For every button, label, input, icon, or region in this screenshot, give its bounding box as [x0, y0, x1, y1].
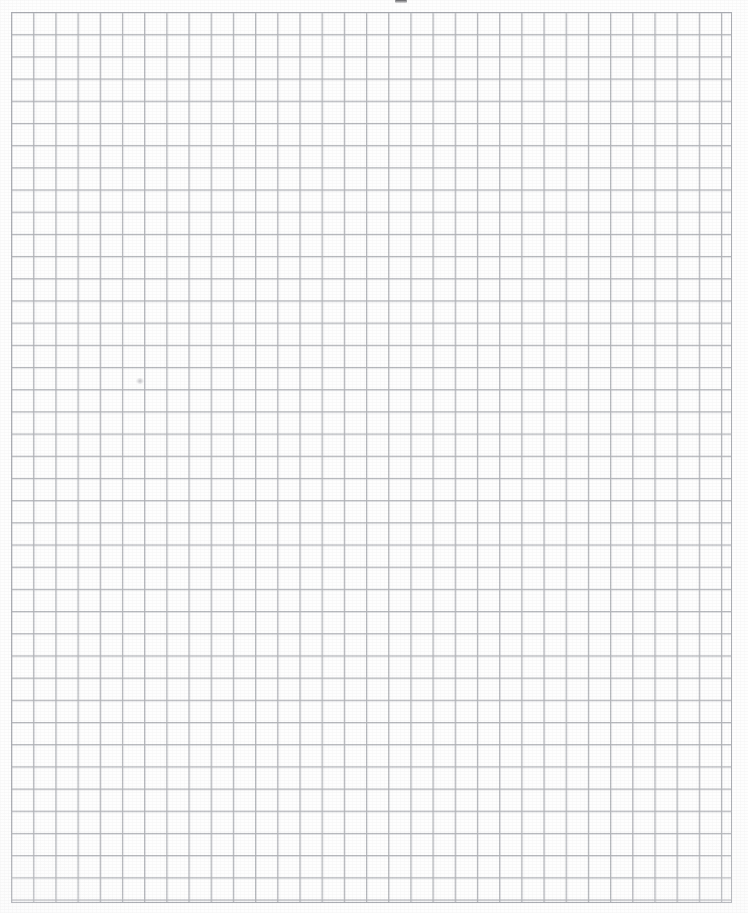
grid-lines [11, 12, 732, 903]
grid-paper-page: Blank Graph Paper Sheet Scanned blank sh… [0, 0, 748, 913]
